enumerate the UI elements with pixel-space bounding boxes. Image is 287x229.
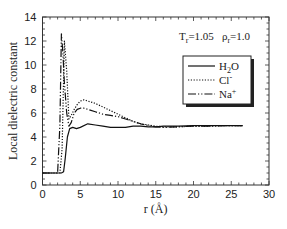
temp-value: =1.05 [188, 30, 214, 42]
dielectric-chart: 05101520253002468101214 r (Å) Local diel… [0, 0, 287, 229]
y-tick-label: 6 [30, 107, 36, 119]
y-axis-label: Local dielectric constant [6, 41, 20, 160]
legend-box [183, 56, 251, 104]
x-tick-label: 10 [112, 188, 124, 200]
y-tick-label: 10 [24, 59, 36, 71]
x-axis-label: r (Å) [144, 202, 168, 216]
x-tick-label: 15 [150, 188, 162, 200]
y-tick-label: 12 [24, 35, 36, 47]
legend: H2O Cl- Na+ [183, 56, 254, 107]
x-tick-label: 0 [39, 188, 45, 200]
y-tick-label: 0 [30, 179, 36, 191]
x-tick-label: 25 [225, 188, 237, 200]
conditions-annotation: Tr=1.05ρr=1.0 [179, 30, 251, 45]
density-value: =1.0 [230, 30, 250, 42]
y-tick-label: 4 [30, 131, 36, 143]
x-tick-label: 20 [187, 188, 199, 200]
x-tick-label: 5 [77, 188, 83, 200]
x-tick-label: 30 [263, 188, 275, 200]
y-tick-label: 8 [30, 83, 36, 95]
series-h2o [43, 124, 243, 173]
y-tick-label: 14 [24, 11, 36, 23]
y-tick-label: 2 [30, 155, 36, 167]
